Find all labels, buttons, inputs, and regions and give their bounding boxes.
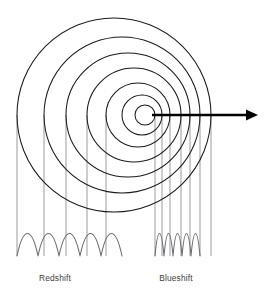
redshift-label: Redshift bbox=[39, 273, 71, 283]
diagram-background bbox=[0, 0, 272, 303]
blueshift-label: Blueshift bbox=[159, 273, 193, 283]
doppler-svg: Redshift Blueshift bbox=[0, 0, 272, 303]
doppler-diagram-canvas: Redshift Blueshift bbox=[0, 0, 272, 303]
